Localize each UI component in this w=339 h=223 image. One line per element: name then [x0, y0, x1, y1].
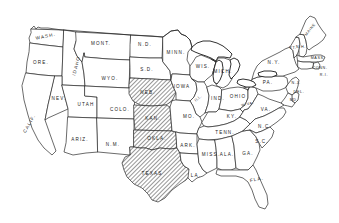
state-label-nc: N.C. — [258, 125, 272, 130]
state-label-mich: MICH. — [214, 70, 233, 75]
state-label-sd: S.D. — [140, 68, 154, 73]
state-label-wis: WIS. — [196, 65, 211, 70]
state-label-ark: ARK. — [180, 144, 195, 149]
state-label-tenn: TENN. — [215, 131, 235, 136]
us-map-figure: WASH.ORE.CALIF.IDAHONEV.UTAHARIZ.MONT.WY… — [0, 0, 339, 223]
state-label-minn: MINN. — [167, 51, 186, 56]
state-label-ariz: ARIZ. — [71, 138, 89, 143]
state-label-ky: KY. — [227, 115, 237, 120]
state-label-neb: NEB. — [140, 91, 155, 96]
state-label-ala: ALA. — [220, 153, 235, 158]
state-label-okla: OKLA. — [147, 137, 166, 142]
state-label-ohio: OHIO — [230, 95, 246, 100]
state-label-ny: N.Y. — [268, 61, 281, 66]
state-label-mont: MONT. — [91, 42, 111, 47]
state-label-ri: R.I. — [320, 74, 328, 78]
state-label-nj: N.J. — [291, 82, 300, 86]
state-label-texas: TEXAS — [142, 172, 163, 177]
state-label-sc: S.C. — [255, 140, 269, 145]
state-label-nm: N.M. — [106, 143, 120, 148]
state-label-ind: IND. — [211, 97, 225, 102]
state-label-conn: CONN. — [312, 67, 327, 71]
state-label-mo: MO. — [183, 115, 195, 120]
state-shape-fla — [216, 165, 268, 209]
state-label-ga: GA. — [242, 152, 253, 157]
state-shape-nm — [97, 118, 134, 155]
state-label-kan: KAN. — [145, 117, 160, 122]
state-label-wyo: WYO. — [102, 77, 119, 82]
state-label-pa: PA. — [263, 81, 274, 86]
state-label-colo: COLO. — [110, 108, 130, 113]
state-label-del: DEL. — [294, 91, 305, 95]
state-label-la: LA. — [191, 174, 201, 179]
lake-ontario — [258, 71, 277, 77]
state-shape-mont — [74, 32, 131, 62]
state-label-ore: ORE. — [33, 61, 49, 66]
state-label-nh: N.H. — [296, 46, 306, 50]
state-outlines — [22, 16, 326, 209]
state-label-utah: UTAH — [78, 103, 95, 108]
state-label-nd: N.D. — [138, 43, 152, 48]
state-label-iowa: IOWA — [174, 85, 191, 90]
state-label-mass: MASS. — [311, 57, 326, 61]
state-label-nev: NEV. — [52, 97, 67, 102]
state-label-va: VA. — [261, 108, 272, 113]
state-label-md: MD. — [290, 99, 299, 103]
state-label-miss: MISS. — [202, 153, 220, 158]
